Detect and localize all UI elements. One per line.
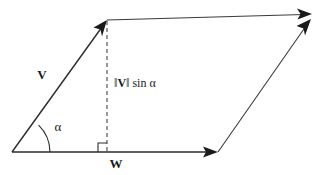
parallelogram-right-edge xyxy=(218,26,306,152)
angle-alpha-label: α xyxy=(55,119,62,134)
vector-v-label: V xyxy=(37,67,47,82)
right-edge-arrowhead xyxy=(297,19,312,36)
right-angle-marker xyxy=(98,143,107,152)
top-edge-arrowhead xyxy=(297,9,312,20)
vector-w-label: W xyxy=(110,156,123,171)
vector-parallelogram-diagram: V W α ‖V‖sinα xyxy=(0,0,329,175)
parallelogram-top-edge xyxy=(107,15,304,21)
angle-arc xyxy=(39,125,50,152)
sin-function: sin xyxy=(132,76,146,90)
norm-vector-v: V xyxy=(117,76,126,90)
norm-close-bar: ‖ xyxy=(126,76,129,90)
sin-argument-alpha: α xyxy=(149,76,156,90)
vector-v-arrowhead xyxy=(94,20,108,37)
height-expression-label: ‖V‖sinα xyxy=(114,76,156,90)
